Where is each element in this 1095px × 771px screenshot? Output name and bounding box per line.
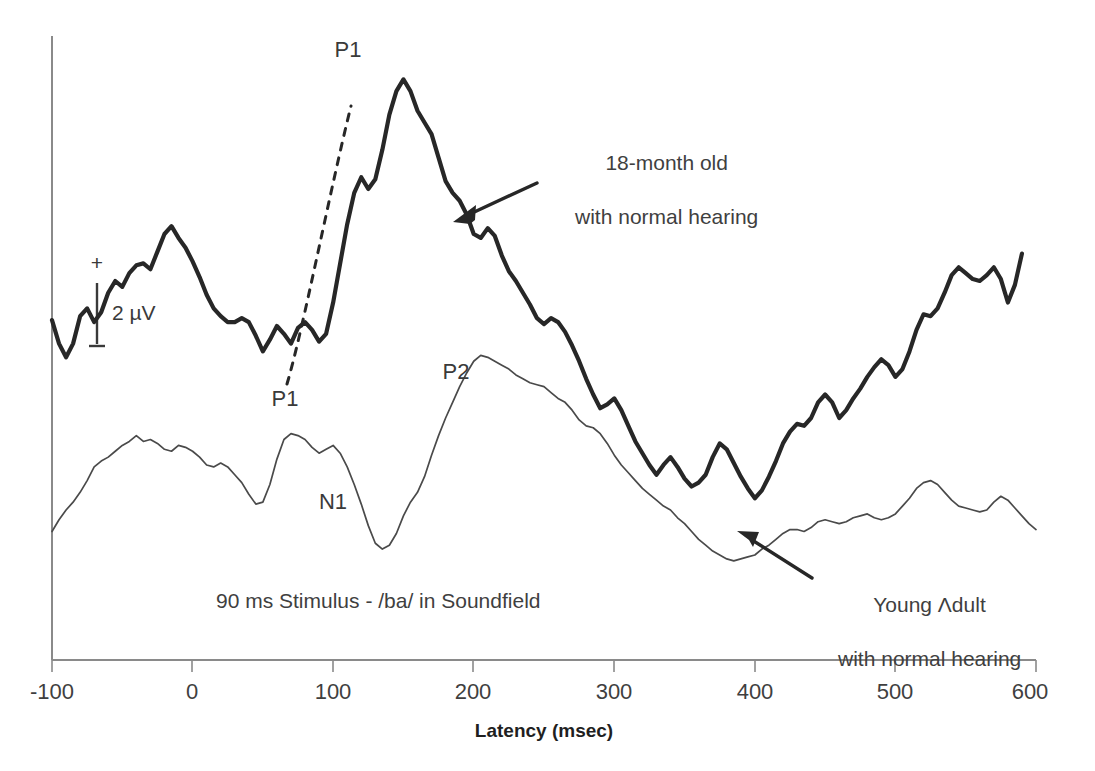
page-bottom-edge <box>0 757 1095 771</box>
x-tick-label-1: 0 <box>186 678 198 706</box>
stimulus-caption: 90 ms Stimulus - /ba/ in Soundfield <box>216 588 541 615</box>
x-tick-label-3: 200 <box>455 678 492 706</box>
peak-label-infant-p1: P1 <box>335 36 362 64</box>
x-tick-label-0: -100 <box>30 678 74 706</box>
annotation-adult: Young Λdult with normal hearing <box>815 565 1022 699</box>
infant-annotation-arrow <box>453 183 537 224</box>
polarity-positive-mark: + <box>91 250 103 277</box>
x-tick-label-6: 500 <box>877 678 914 706</box>
annotation-infant-line1: 18-month old <box>605 151 728 174</box>
peak-label-adult-p2: P2 <box>443 358 470 386</box>
waveform-young-adult <box>52 355 1036 561</box>
annotation-infant-line2: with normal hearing <box>575 205 758 228</box>
adult-annotation-arrow <box>737 531 812 578</box>
peak-label-adult-n1: N1 <box>319 488 347 516</box>
scale-bar-amplitude-label: 2 µV <box>112 300 156 327</box>
x-tick-label-4: 300 <box>596 678 633 706</box>
x-tick-label-2: 100 <box>315 678 352 706</box>
annotation-adult-line1: Young Λdult <box>873 593 986 616</box>
x-tick-label-7: 600 <box>1012 678 1049 706</box>
annotation-adult-line2: with normal hearing <box>838 647 1021 670</box>
waveform-infant-18-month <box>52 79 1022 498</box>
peak-label-adult-p1: P1 <box>272 385 299 413</box>
erp-waveform-figure: + 2 µV P1 P1 N1 P2 18-month old with nor… <box>0 0 1095 771</box>
x-axis-title: Latency (msec) <box>475 719 613 743</box>
x-tick-label-5: 400 <box>737 678 774 706</box>
annotation-infant: 18-month old with normal hearing <box>552 123 759 257</box>
